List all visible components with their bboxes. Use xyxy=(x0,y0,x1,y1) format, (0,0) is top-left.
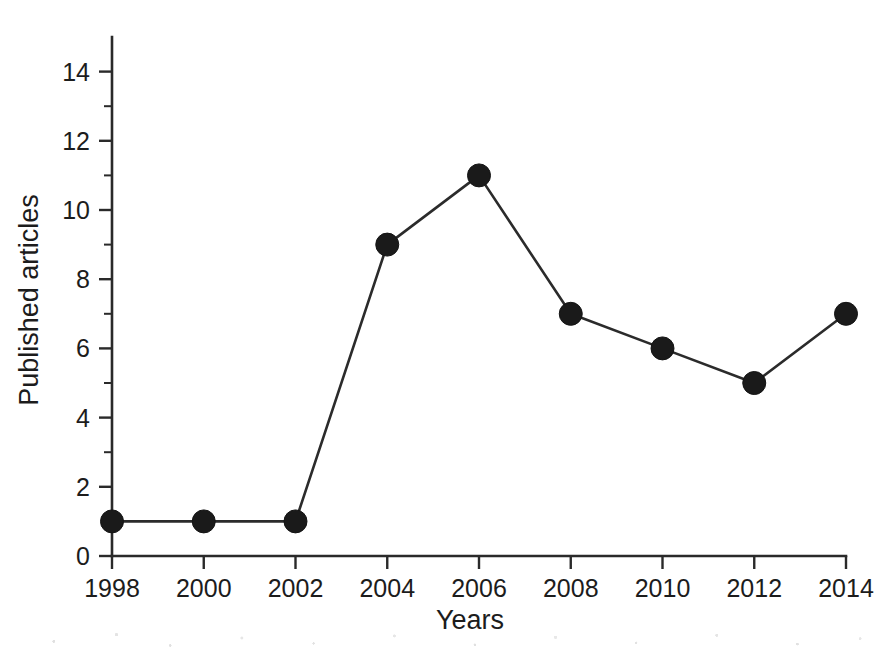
x-tick-label: 2002 xyxy=(268,574,324,602)
data-point-marker xyxy=(284,510,307,533)
y-tick-label: 0 xyxy=(76,542,90,570)
y-tick-label: 10 xyxy=(62,196,90,224)
y-tick-label: 6 xyxy=(76,334,90,362)
x-tick-label: 2010 xyxy=(635,574,691,602)
x-tick-label: 2014 xyxy=(818,574,874,602)
data-point-marker xyxy=(468,164,491,187)
x-tick-label: 2000 xyxy=(176,574,232,602)
data-point-marker xyxy=(835,302,858,325)
x-axis-title: Years xyxy=(436,605,504,635)
data-point-marker xyxy=(101,510,124,533)
y-tick-label: 4 xyxy=(76,404,90,432)
x-tick-label: 1998 xyxy=(84,574,140,602)
x-tick-label: 2004 xyxy=(359,574,415,602)
chart-figure: 02468101214 1998200020022004200620082010… xyxy=(0,0,896,655)
x-axis-tick-labels: 199820002002200420062008201020122014 xyxy=(84,574,874,602)
y-tick-label: 14 xyxy=(62,58,90,86)
x-tick-label: 2012 xyxy=(726,574,782,602)
data-point-marker xyxy=(376,233,399,256)
y-tick-label: 2 xyxy=(76,473,90,501)
x-tick-label: 2008 xyxy=(543,574,599,602)
y-tick-label: 12 xyxy=(62,127,90,155)
data-point-marker xyxy=(743,372,766,395)
y-axis-title: Published articles xyxy=(14,194,44,406)
data-point-marker xyxy=(559,302,582,325)
x-tick-label: 2006 xyxy=(451,574,507,602)
data-point-marker xyxy=(651,337,674,360)
data-point-marker xyxy=(192,510,215,533)
y-tick-label: 8 xyxy=(76,265,90,293)
line-chart: 02468101214 1998200020022004200620082010… xyxy=(0,0,896,655)
